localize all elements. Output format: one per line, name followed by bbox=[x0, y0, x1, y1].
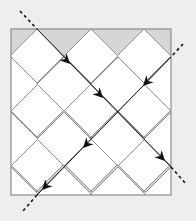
diagram-canvas bbox=[0, 0, 196, 221]
diamond-grid bbox=[0, 29, 196, 221]
ray-down-left-dashed-in bbox=[171, 44, 183, 57]
ray-down-right-dashed-in bbox=[20, 11, 37, 29]
ray-down-right-dashed-out bbox=[171, 167, 186, 184]
diamond-grid-ray-diagram bbox=[0, 0, 196, 221]
ray-down-left-dashed-out bbox=[23, 195, 37, 211]
